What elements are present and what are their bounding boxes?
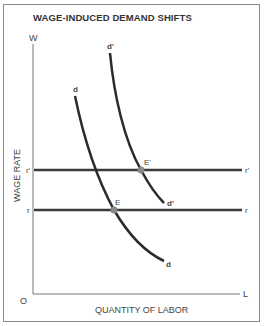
equilibrium-e-prime-label: E' xyxy=(144,158,151,167)
demand-curve-d xyxy=(75,96,164,261)
y-axis-end-label: W xyxy=(29,33,38,43)
x-axis-title: QUANTITY OF LABOR xyxy=(95,305,189,315)
wage-line-r-prime-left-label: r' xyxy=(26,166,31,175)
x-axis-end-label: L xyxy=(243,289,248,299)
equilibrium-e-prime-marker xyxy=(138,167,145,174)
equilibrium-e-label: E xyxy=(115,198,120,207)
equilibrium-e-marker xyxy=(111,207,118,214)
chart-plot: W L O WAGE RATE QUANTITY OF LABOR r' r' … xyxy=(0,0,265,326)
wage-line-r-left-label: r xyxy=(27,206,30,215)
demand-curve-d-prime xyxy=(110,53,164,203)
wage-line-r-right-label: r xyxy=(245,206,248,215)
y-axis-title: WAGE RATE xyxy=(12,149,22,202)
origin-label: O xyxy=(20,296,27,306)
demand-curve-d-prime-bottom-label: d' xyxy=(167,199,174,208)
demand-curve-d-prime-top-label: d' xyxy=(107,42,114,51)
demand-curve-d-top-label: d xyxy=(73,85,78,94)
demand-curve-d-bottom-label: d xyxy=(166,260,171,269)
wage-line-r-prime-right-label: r' xyxy=(245,166,250,175)
